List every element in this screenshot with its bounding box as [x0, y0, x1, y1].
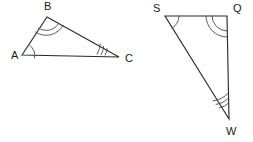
- vertex-label-s: S: [153, 2, 160, 14]
- triangle-sqw: S Q W: [153, 2, 242, 137]
- geometry-canvas: A B C S Q W: [0, 0, 253, 142]
- angle-arc-a-1: [30, 46, 35, 59]
- angle-arc-q: [206, 16, 227, 37]
- triangle-abc-outline: [22, 17, 119, 57]
- vertex-label-b: B: [44, 0, 51, 12]
- vertex-label-q: Q: [233, 2, 242, 14]
- vertex-label-c: C: [125, 52, 133, 64]
- vertex-label-w: W: [226, 125, 237, 137]
- angle-arc-s-1: [172, 16, 179, 28]
- geometry-figure: A B C S Q W: [0, 0, 253, 142]
- angle-arc-a: [30, 46, 35, 59]
- angle-arc-b-1: [38, 23, 58, 30]
- triangle-abc: A B C: [11, 0, 133, 64]
- angle-arc-s: [172, 16, 179, 28]
- angle-arc-q-1: [212, 16, 227, 31]
- vertex-label-a: A: [11, 49, 19, 61]
